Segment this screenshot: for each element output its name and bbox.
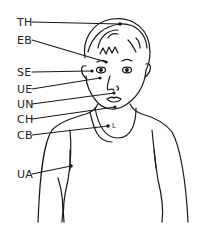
label-un: UN — [17, 99, 34, 110]
label-ua: UA — [17, 169, 33, 180]
label-eb: EB — [17, 35, 32, 46]
mouth — [107, 97, 121, 102]
label-cb: CB — [17, 130, 33, 141]
label-ch: CH — [17, 114, 33, 125]
nose — [107, 76, 118, 90]
label-ue: UE — [17, 84, 32, 95]
side-mark-l: L — [112, 121, 116, 132]
label-th: TH — [17, 17, 32, 28]
label-se: SE — [17, 67, 31, 78]
